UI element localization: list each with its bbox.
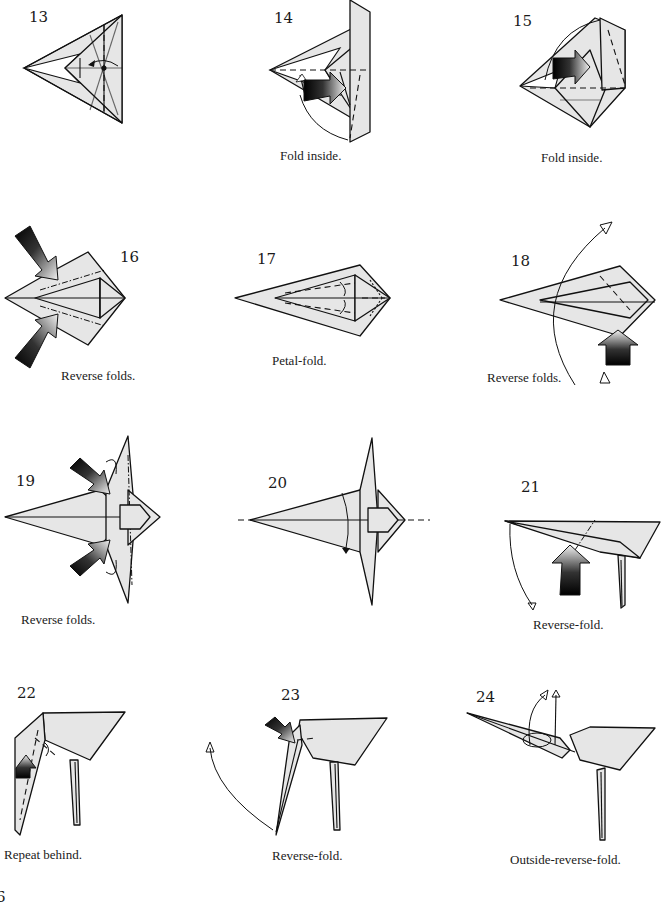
page-number: 6 — [0, 888, 6, 906]
diagram-24 — [0, 0, 669, 908]
step-caption: Outside-reverse-fold. — [510, 852, 621, 868]
